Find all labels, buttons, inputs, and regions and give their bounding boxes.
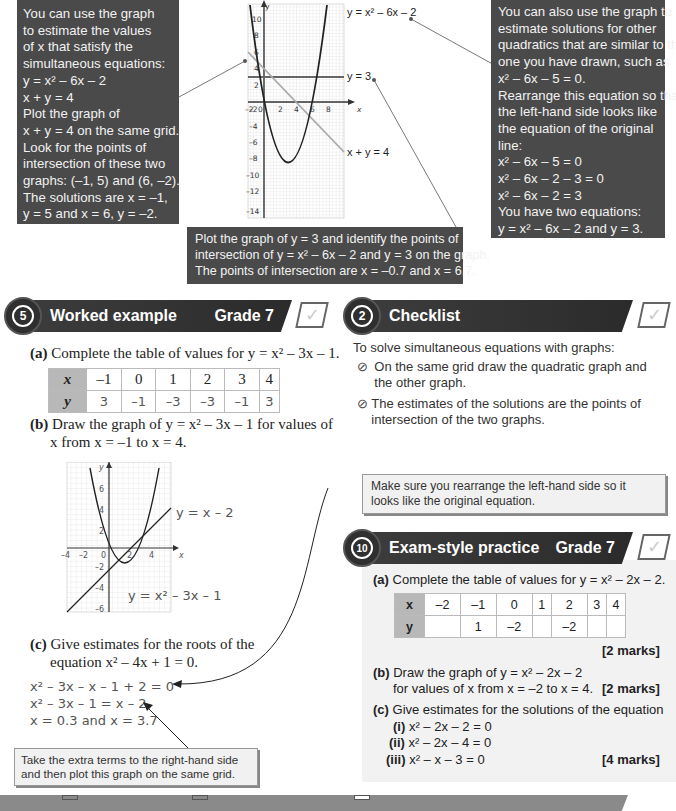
values-table: x –1 0 1 2 3 4 y 3 –1 –3 –3 –1 3	[48, 368, 280, 413]
note-line: x² – 6x – 2 = 3	[498, 188, 659, 205]
note-line: one you have drawn, such as	[498, 54, 659, 71]
marks-a: [2 marks]	[602, 643, 660, 658]
checklist-intro: To solve simultaneous equations with gra…	[353, 340, 663, 357]
worked-example-title: Worked example	[50, 307, 177, 325]
table-cell-input[interactable]	[587, 616, 606, 638]
part-a: (a) Complete the table of values for y =…	[30, 345, 340, 362]
timer-icon: 2	[351, 305, 373, 327]
badge-number: 2	[359, 309, 366, 323]
sub-label: (iii)	[386, 752, 406, 767]
sub-eq: x² – x – 3 = 0	[409, 752, 485, 767]
part-label: (b)	[30, 416, 48, 432]
table-row: y 3 –1 –3 –3 –1 3	[49, 391, 280, 413]
timer-badge: 5	[4, 297, 42, 335]
table-cell: 4	[606, 594, 625, 616]
checklist-title: Checklist	[389, 307, 460, 325]
note-line: the equation of the original	[498, 121, 659, 138]
part-label: (b)	[373, 665, 390, 680]
table-cell: 0	[496, 594, 532, 616]
worked-example-banner: Worked example Grade 7	[14, 300, 292, 332]
table-cell: –3	[190, 391, 224, 413]
table-cell: 1	[460, 616, 496, 638]
note-line: x² – 6x – 5 = 0	[498, 154, 659, 171]
part-text: Give estimates for the solutions of the …	[393, 702, 664, 717]
check-circle-icon: ⊘	[353, 359, 374, 392]
tip-box: Make sure you rearrange the left-hand si…	[362, 474, 666, 514]
note-line: Plot the graph of y = 3 and identify the…	[195, 231, 455, 247]
footer-box	[62, 795, 78, 800]
checklist-item: ⊘ The estimates of the solutions are the…	[353, 396, 663, 429]
part-text: Complete the table of values for y = x² …	[51, 345, 339, 361]
exam-part-b: (b) Draw the graph of y = x² – 2x – 2 fo…	[373, 665, 593, 697]
sub-question: (ii) x² – 2x – 4 = 0	[373, 735, 664, 752]
note-line: intersection of y = x² – 6x – 2 and y = …	[195, 247, 455, 263]
note-line: You have two equations:	[498, 204, 659, 221]
footer-bar	[0, 795, 628, 811]
note-line: x² – 6x – 2 – 3 = 0	[498, 171, 659, 188]
sub-question: (i) x² – 2x – 2 = 0	[373, 719, 664, 736]
table-cell: 3	[587, 594, 606, 616]
table-row: x –2 –1 0 1 2 3 4	[395, 594, 626, 616]
marks-b: [2 marks]	[602, 681, 660, 696]
exam-part-a: (a) Complete the table of values for y =…	[373, 572, 665, 587]
tick-box[interactable]: ✓	[637, 534, 671, 560]
exam-values-table: x –2 –1 0 1 2 3 4 y 1 –2 –2	[394, 593, 626, 638]
tick-box[interactable]: ✓	[295, 302, 329, 328]
note-line: quadratics that are similar to the	[498, 37, 659, 54]
table-row: y 1 –2 –2	[395, 616, 626, 638]
checklist-body: To solve simultaneous equations with gra…	[353, 340, 663, 429]
table-cell: –2	[551, 616, 587, 638]
footer-box	[354, 795, 370, 800]
table-cell: 4	[259, 369, 279, 391]
y-header: y	[49, 391, 87, 413]
part-text: Complete the table of values for y = x² …	[393, 572, 666, 587]
hint-box: Take the extra terms to the right-hand s…	[14, 748, 258, 786]
table-cell-input[interactable]	[606, 616, 625, 638]
table-cell: 3	[259, 391, 279, 413]
x-header: x	[49, 369, 87, 391]
badge-number: 5	[20, 309, 27, 323]
part-text: Draw the graph of y = x² – 3x – 1 for va…	[52, 416, 333, 432]
table-cell: –1	[87, 369, 122, 391]
tick-box[interactable]: ✓	[637, 302, 671, 328]
note-line: x² – 6x – 5 = 0.	[498, 71, 659, 88]
note-line: Rearrange this equation so that	[498, 88, 659, 105]
table-cell-input[interactable]	[425, 616, 461, 638]
badge-number: 10	[356, 543, 367, 554]
right-note: You can also use the graph to estimate s…	[491, 0, 665, 238]
checklist-banner: Checklist	[353, 300, 633, 332]
note-line: You can also use the graph to	[498, 4, 659, 21]
grade-label: Grade 7	[555, 539, 615, 557]
part-label: (a)	[30, 345, 48, 361]
checklist-text: On the same grid draw the quadratic grap…	[374, 359, 663, 392]
footer-box	[192, 795, 208, 800]
table-cell-input[interactable]	[532, 616, 551, 638]
x-header: x	[395, 594, 425, 616]
check-icon: ✓	[305, 304, 320, 326]
table-cell: 0	[121, 369, 155, 391]
table-cell: 3	[225, 369, 259, 391]
table-cell: 1	[156, 369, 190, 391]
part-label: (a)	[373, 572, 389, 587]
part-text: Draw the graph of y = x² – 2x – 2	[393, 665, 582, 680]
part-label: (c)	[373, 702, 389, 717]
check-icon: ✓	[647, 536, 662, 558]
table-cell: 2	[190, 369, 224, 391]
table-cell: –3	[156, 391, 190, 413]
timer-badge: 2	[343, 297, 381, 335]
table-cell: 3	[87, 391, 122, 413]
timer-icon: 10	[351, 537, 373, 559]
bottom-note: Plot the graph of y = 3 and identify the…	[187, 227, 463, 284]
y-header: y	[395, 616, 425, 638]
timer-icon: 5	[12, 305, 34, 327]
sub-eq: x² – 2x – 4 = 0	[409, 735, 492, 750]
checklist-item: ⊘ On the same grid draw the quadratic gr…	[353, 359, 663, 392]
part-text: for values of x from x = –2 to x = 4.	[373, 681, 593, 696]
check-icon: ✓	[647, 304, 662, 326]
table-cell: 1	[532, 594, 551, 616]
sub-eq: x² – 2x – 2 = 0	[409, 719, 492, 734]
marks-c: [4 marks]	[602, 752, 660, 767]
table-cell: –1	[121, 391, 155, 413]
grade-label: Grade 7	[214, 307, 274, 325]
note-line: y = x² – 6x – 2 and y = 3.	[498, 221, 659, 238]
